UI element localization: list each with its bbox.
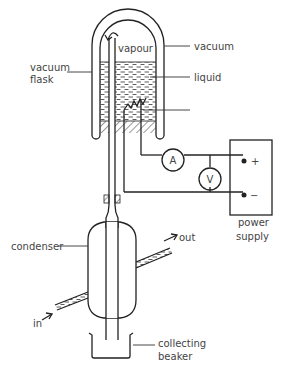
svg-text:V: V — [207, 174, 214, 185]
condenser — [55, 222, 172, 340]
svg-text:A: A — [170, 155, 177, 166]
voltmeter: V — [199, 168, 221, 190]
label-vacuum: vacuum — [194, 41, 234, 52]
apparatus-diagram: A V + − power supply — [0, 0, 286, 370]
in-arrow-icon — [42, 313, 52, 320]
label-in: in — [33, 318, 42, 329]
label-vapour: vapour — [118, 43, 154, 54]
svg-text:−: − — [250, 190, 258, 201]
label-collecting-beaker-2: beaker — [158, 351, 193, 362]
label-condenser: condenser — [11, 241, 64, 252]
ammeter: A — [162, 149, 184, 171]
collecting-beaker — [89, 333, 133, 358]
label-vacuum-flask: vacuum — [30, 62, 70, 73]
circuit-wires — [124, 155, 247, 198]
label-collecting-beaker: collecting — [158, 338, 206, 349]
out-arrow-icon — [164, 234, 177, 241]
svg-text:+: + — [251, 156, 259, 167]
label-out: out — [179, 232, 195, 243]
svg-text:power: power — [238, 217, 270, 228]
label-liquid: liquid — [194, 72, 221, 83]
label-vacuum-flask-2: flask — [30, 74, 54, 85]
vapour-arrow-icon — [105, 33, 118, 40]
svg-text:supply: supply — [236, 231, 269, 242]
